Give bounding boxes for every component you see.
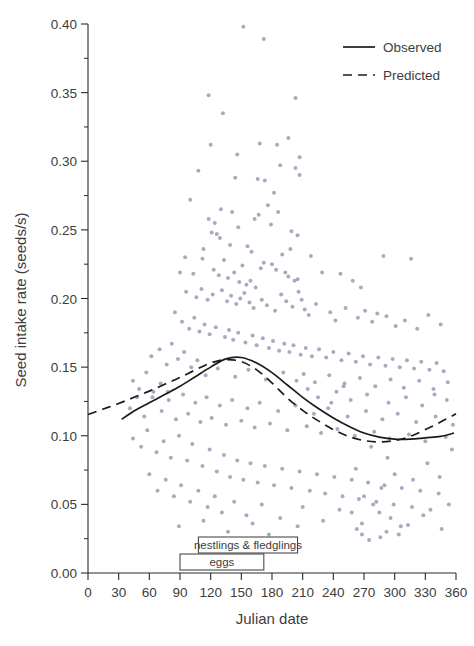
legend-predicted-label: Predicted: [383, 68, 440, 83]
scatter-point: [427, 368, 431, 372]
scatter-point: [294, 166, 298, 170]
scatter-point: [286, 136, 290, 140]
scatter-point: [240, 264, 244, 268]
scatter-point: [235, 458, 239, 462]
scatter-point: [294, 96, 298, 100]
scatter-point: [202, 247, 206, 251]
scatter-points-layer: [128, 25, 455, 542]
scatter-point: [409, 257, 413, 261]
scatter-point: [210, 231, 214, 235]
scatter-point: [162, 439, 166, 443]
scatter-point: [196, 489, 200, 493]
scatter-point: [238, 297, 242, 301]
scatter-point: [142, 415, 146, 419]
scatter-point: [131, 379, 135, 383]
scatter-point: [180, 320, 184, 324]
scatter-point: [392, 502, 396, 506]
scatter-point: [280, 253, 284, 257]
scatter-point: [270, 262, 274, 266]
scatter-point: [200, 257, 204, 261]
scatter-point: [262, 261, 266, 265]
scatter-point: [369, 445, 373, 449]
scatter-point: [365, 393, 369, 397]
scatter-point: [145, 428, 149, 432]
scatter-point: [305, 424, 309, 428]
scatter-point: [440, 527, 444, 531]
scatter-point: [377, 511, 381, 515]
scatter-point: [242, 291, 246, 295]
scatter-point: [384, 530, 388, 534]
scatter-point: [226, 276, 230, 280]
scatter-point: [304, 346, 308, 350]
scatter-point: [375, 312, 379, 316]
scatter-point: [170, 342, 174, 346]
scatter-point: [386, 456, 390, 460]
scatter-point: [216, 367, 220, 371]
scatter-point: [389, 516, 393, 520]
scatter-point: [434, 415, 438, 419]
scatter-point: [357, 497, 361, 501]
scatter-point: [442, 369, 446, 373]
scatter-point: [263, 178, 267, 182]
scatter-point: [381, 254, 385, 258]
scatter-point: [206, 298, 210, 302]
scatter-point: [360, 533, 364, 537]
scatter-point: [362, 494, 366, 498]
scatter-point: [350, 511, 354, 515]
scatter-point: [173, 310, 177, 314]
scatter-point: [398, 365, 402, 369]
scatter-point: [358, 376, 362, 380]
scatter-point: [435, 361, 439, 365]
scatter-point: [185, 458, 189, 462]
scatter-point: [191, 272, 195, 276]
scatter-point: [234, 302, 238, 306]
annotation-label: nestlings & fledglings: [194, 539, 302, 551]
scatter-point: [280, 467, 284, 471]
x-tick-label: 90: [172, 585, 187, 600]
scatter-point: [158, 347, 162, 351]
scatter-point: [349, 398, 353, 402]
scatter-point: [360, 522, 364, 526]
scatter-point: [433, 393, 437, 397]
y-tick-label: 0.05: [51, 497, 77, 512]
scatter-point: [380, 417, 384, 421]
scatter-point: [334, 390, 338, 394]
scatter-point: [451, 423, 455, 427]
period-annotations-layer: nestlings & fledglingseggs: [180, 537, 302, 570]
scatter-point: [224, 423, 228, 427]
scatter-point: [445, 398, 449, 402]
scatter-point: [217, 273, 221, 277]
scatter-point: [351, 279, 355, 283]
scatter-point: [233, 375, 237, 379]
scatter-point: [332, 475, 336, 479]
scatter-point: [219, 207, 223, 211]
scatter-point: [218, 236, 222, 240]
scatter-point: [189, 365, 193, 369]
scatter-point: [303, 307, 307, 311]
scatter-point: [260, 298, 264, 302]
scatter-point: [277, 349, 281, 353]
scatter-point: [412, 367, 416, 371]
scatter-point: [210, 416, 214, 420]
scatter-point: [226, 530, 230, 534]
scatter-point: [428, 508, 432, 512]
scatter-point: [252, 306, 256, 310]
scatter-point: [373, 384, 377, 388]
scatter-point: [355, 527, 359, 531]
scatter-point: [354, 360, 358, 364]
scatter-point: [197, 329, 201, 333]
scatter-point: [213, 494, 217, 498]
scatter-point: [338, 272, 342, 276]
scatter-point: [241, 478, 245, 482]
scatter-point: [181, 393, 185, 397]
chart-legend: Observed Predicted: [343, 40, 442, 83]
scatter-point: [178, 270, 182, 274]
scatter-point: [283, 270, 287, 274]
scatter-point: [417, 379, 421, 383]
scatter-point: [450, 447, 454, 451]
x-tick-label: 60: [142, 585, 157, 600]
scatter-point: [319, 431, 323, 435]
scatter-point: [306, 387, 310, 391]
scatter-point: [438, 475, 442, 479]
scatter-point: [194, 295, 198, 299]
